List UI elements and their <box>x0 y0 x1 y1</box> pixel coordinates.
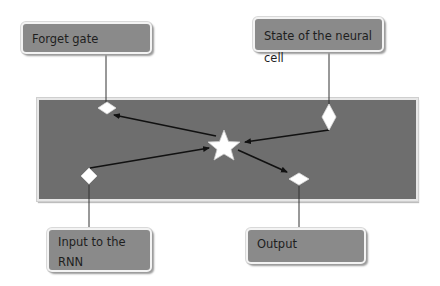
arrow-center-to-output <box>238 150 287 172</box>
input-text-line1: Input to the <box>58 232 141 252</box>
cell-star-icon <box>208 130 240 160</box>
arrow-state-to-center <box>245 130 329 142</box>
input-diamond-icon <box>81 168 97 184</box>
output-label: Output <box>246 228 366 264</box>
arrow-input-to-center <box>90 148 209 168</box>
forget-gate-diamond-icon <box>98 102 116 114</box>
output-diamond-icon <box>289 173 309 185</box>
forget-gate-text: Forget gate <box>32 32 98 46</box>
cell-state-label: State of the neural cell <box>253 17 384 52</box>
arrow-center-to-forget <box>114 115 216 136</box>
input-text-line2: RNN <box>58 252 141 272</box>
forget-gate-label: Forget gate <box>21 22 152 54</box>
output-text: Output <box>257 237 297 251</box>
input-label: Input to the RNN <box>47 228 152 272</box>
state-diamond-icon <box>322 104 336 130</box>
